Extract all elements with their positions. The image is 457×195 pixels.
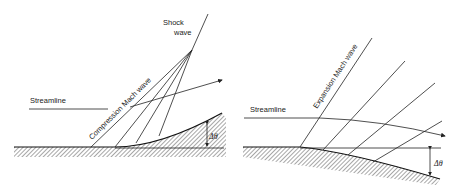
- expansion-wave-3: [348, 83, 435, 155]
- mach-wave-diagram: Δθ Shock wave Streamline Compression Mac…: [0, 0, 457, 195]
- mach-wave-3: [136, 50, 192, 143]
- angle-label-right: Δθ: [433, 159, 443, 168]
- mach-wave-1: [91, 50, 192, 147]
- shock-label: Shock: [163, 18, 184, 27]
- expansion-wave-4: [373, 121, 442, 162]
- mach-wave-4: [159, 50, 192, 136]
- shock-label-2: wave: [173, 28, 192, 37]
- expansion-wave-1: [300, 38, 372, 147]
- streamline-label-right: Streamline: [250, 105, 286, 114]
- expansion-mach-wave-label: Expansion Mach wave: [311, 42, 359, 110]
- streamline-label-left: Streamline: [30, 96, 66, 105]
- expansion-wall-hatch: [243, 147, 440, 185]
- compression-panel: Δθ Shock wave Streamline Compression Mac…: [14, 14, 226, 157]
- angle-label-left: Δθ: [208, 132, 218, 141]
- expansion-panel: Δθ Streamline Expansion Mach wave: [243, 38, 445, 185]
- shock-wave: [192, 14, 208, 50]
